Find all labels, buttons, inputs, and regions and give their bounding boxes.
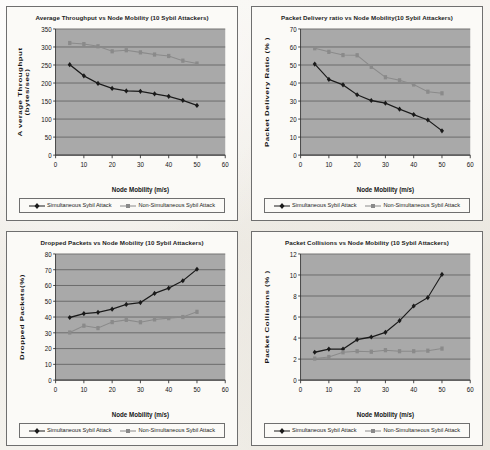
x-tick-label: 10 [80, 161, 87, 170]
x-tick-label: 0 [54, 386, 57, 395]
x-tick-label: 50 [194, 386, 201, 395]
legend-marker-diamond-icon [274, 427, 290, 435]
data-point-marker-square [125, 318, 128, 322]
x-tick-label: 0 [299, 161, 302, 170]
data-point-marker-square [68, 330, 71, 334]
y-tick-label: 0 [293, 151, 296, 160]
legend-entry-non-simultaneous: Non-Simultaneous Sybil Attack [120, 427, 215, 435]
y-tick-label: 2 [293, 355, 296, 364]
x-axis-title: Node Mobility (m/s) [357, 185, 415, 194]
line-chart-packet-collisions: 0246810120102030405060Node Mobility (m/s… [256, 249, 478, 422]
chart-legend: Simultaneous Sybil Attack Non-Simultaneo… [19, 198, 225, 213]
x-tick-label: 50 [439, 161, 446, 170]
legend-marker-square-icon [365, 427, 381, 435]
legend-entry-non-simultaneous: Non-Simultaneous Sybil Attack [365, 427, 460, 435]
y-tick-label: 250 [41, 61, 51, 70]
data-point-marker-square [82, 42, 85, 46]
legend-label: Simultaneous Sybil Attack [47, 203, 111, 209]
data-point-marker-square [370, 349, 373, 353]
legend-label: Simultaneous Sybil Attack [292, 203, 356, 209]
legend-label: Non-Simultaneous Sybil Attack [383, 428, 460, 434]
legend-marker-diamond-icon [29, 427, 45, 435]
data-point-marker-square [426, 89, 429, 93]
data-point-marker-square [412, 349, 415, 353]
y-tick-label: 40 [290, 79, 297, 88]
x-tick-label: 20 [109, 386, 116, 395]
data-point-marker-square [139, 320, 142, 324]
y-tick-label: 6 [293, 313, 296, 322]
y-tick-label: 0 [48, 151, 51, 160]
y-tick-label: 100 [41, 115, 51, 124]
data-point-marker-square [370, 65, 373, 69]
y-axis-title: Dropped Packets(%) [18, 274, 25, 360]
y-tick-label: 20 [290, 115, 297, 124]
x-axis-title: Node Mobility (m/s) [112, 185, 170, 194]
x-tick-label: 60 [467, 161, 474, 170]
y-tick-label: 20 [45, 345, 52, 354]
plot-background [301, 29, 471, 155]
chart-cell-packet-delivery-ratio: Packet Delivery ratio vs Node Mobility(1… [245, 0, 490, 225]
x-tick-label: 10 [325, 161, 332, 170]
x-tick-label: 10 [80, 386, 87, 395]
legend-entry-non-simultaneous: Non-Simultaneous Sybil Attack [365, 202, 460, 210]
plot-area: 0501001502002503003500102030405060Node M… [11, 24, 233, 197]
x-tick-label: 60 [222, 161, 229, 170]
chart-legend: Simultaneous Sybil Attack Non-Simultaneo… [19, 423, 225, 438]
legend-label: Simultaneous Sybil Attack [292, 428, 356, 434]
x-tick-label: 20 [354, 161, 361, 170]
x-tick-label: 60 [222, 386, 229, 395]
y-tick-label: 70 [45, 266, 52, 275]
data-point-marker-square [82, 323, 85, 327]
data-point-marker-square [125, 48, 128, 52]
line-chart-average-throughput: 0501001502002503003500102030405060Node M… [11, 24, 233, 197]
data-point-marker-square [181, 315, 184, 319]
data-point-marker-square [96, 326, 99, 330]
legend-label: Simultaneous Sybil Attack [47, 428, 111, 434]
plot-area: 010203040506070800102030405060Node Mobil… [11, 249, 233, 422]
chart-legend: Simultaneous Sybil Attack Non-Simultaneo… [264, 423, 470, 438]
data-point-marker-square [195, 61, 198, 65]
y-tick-label: 70 [290, 25, 297, 34]
y-tick-label: 150 [41, 97, 51, 106]
data-point-marker-square [398, 78, 401, 82]
legend-entry-simultaneous: Simultaneous Sybil Attack [274, 427, 356, 435]
plot-area: 0246810120102030405060Node Mobility (m/s… [256, 249, 478, 422]
y-tick-label: 10 [290, 133, 297, 142]
y-tick-label: 10 [45, 360, 52, 369]
y-tick-label: 30 [290, 97, 297, 106]
y-tick-label: 10 [290, 271, 297, 280]
legend-marker-square-icon [120, 427, 136, 435]
y-axis-title: Packet Delivery Ratio (% ) [263, 37, 270, 147]
data-point-marker-square [384, 348, 387, 352]
x-axis-title: Node Mobility (m/s) [112, 410, 170, 419]
y-tick-label: 60 [290, 43, 297, 52]
chart-panel: Packet Collisions vs Node Mobility (10 S… [251, 231, 483, 446]
y-tick-label: 50 [290, 61, 297, 70]
chart-cell-packet-collisions: Packet Collisions vs Node Mobility (10 S… [245, 225, 490, 450]
y-axis-title: A verage Throughput [16, 47, 23, 136]
y-tick-label: 0 [48, 376, 51, 385]
y-axis-title: (bytes/sec) [24, 68, 31, 115]
x-tick-label: 20 [109, 161, 116, 170]
data-point-marker-square [110, 49, 113, 53]
x-axis-title: Node Mobility (m/s) [357, 410, 415, 419]
x-tick-label: 0 [54, 161, 57, 170]
y-tick-label: 350 [41, 25, 51, 34]
data-point-marker-square [384, 75, 387, 79]
data-point-marker-square [153, 317, 156, 321]
y-tick-label: 0 [293, 376, 296, 385]
data-point-marker-square [313, 356, 316, 360]
chart-panel: Packet Delivery ratio vs Node Mobility(1… [251, 6, 483, 221]
chart-title: Average Throughput vs Node Mobility (10 … [11, 15, 233, 22]
chart-panel: Dropped Packets vs Node Mobility (10 Syb… [6, 231, 238, 446]
x-tick-label: 40 [410, 161, 417, 170]
x-tick-label: 40 [165, 161, 172, 170]
x-tick-label: 50 [194, 161, 201, 170]
line-chart-dropped-packets: 010203040506070800102030405060Node Mobil… [11, 249, 233, 422]
data-point-marker-square [313, 46, 316, 50]
chart-title: Packet Delivery ratio vs Node Mobility(1… [256, 15, 478, 22]
y-tick-label: 12 [290, 250, 297, 259]
chart-cell-dropped-packets: Dropped Packets vs Node Mobility (10 Syb… [0, 225, 245, 450]
x-tick-label: 60 [467, 386, 474, 395]
data-point-marker-square [440, 346, 443, 350]
